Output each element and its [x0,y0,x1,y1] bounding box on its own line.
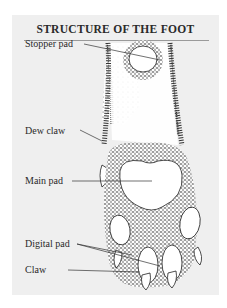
label-claw: Claw [25,264,46,275]
label-dew-claw: Dew claw [25,125,65,136]
paw-illustration [12,15,219,295]
diagram-frame: STRUCTURE OF THE FOOT [12,15,219,295]
stopper-pad-shape [123,40,163,80]
label-stopper-pad: Stopper pad [25,38,73,49]
label-digital-pad: Digital pad [25,238,70,249]
label-main-pad: Main pad [25,175,63,186]
